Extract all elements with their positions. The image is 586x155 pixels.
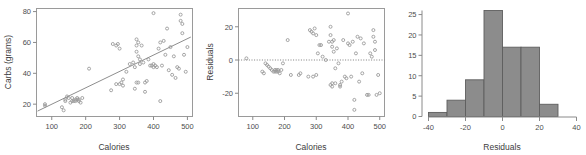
data-point: [186, 46, 189, 49]
data-point: [358, 80, 361, 83]
y-tick-label: 20: [23, 100, 31, 109]
data-point: [334, 82, 337, 85]
data-point: [321, 55, 324, 58]
y-axis-ticks: 0510152025: [408, 10, 422, 121]
data-point: [378, 92, 381, 95]
data-point: [286, 39, 289, 42]
y-tick-label: 5: [412, 92, 416, 101]
data-point: [135, 38, 138, 41]
data-point: [353, 98, 356, 101]
data-point: [369, 52, 372, 55]
data-point: [184, 70, 187, 73]
data-point: [137, 55, 140, 58]
data-point: [334, 67, 337, 70]
data-point: [111, 42, 114, 45]
data-point: [179, 19, 182, 22]
data-point: [329, 34, 332, 37]
data-point: [133, 87, 136, 90]
x-axis-ticks: 100200300400500: [46, 117, 194, 131]
y-tick-label: 20: [408, 31, 416, 40]
data-point: [115, 83, 118, 86]
data-point: [138, 58, 141, 61]
data-point: [280, 68, 283, 71]
data-point: [60, 106, 63, 109]
data-point: [155, 66, 158, 69]
y-tick-label: 40: [23, 69, 31, 78]
x-tick-label: 200: [278, 122, 291, 131]
x-axis-title: Calories: [295, 142, 326, 152]
data-point: [137, 41, 140, 44]
y-axis-title: Carbs (grams): [3, 35, 13, 89]
data-point: [362, 42, 365, 45]
data-point: [347, 12, 350, 15]
data-point: [121, 78, 124, 81]
y-axis-ticks: -20020: [222, 23, 238, 98]
data-point: [353, 108, 356, 111]
data-point: [171, 73, 174, 76]
figure-three-panel-regression-diagnostics: 100200300400500 20406080 Calories Carbs …: [0, 0, 586, 155]
data-point: [145, 80, 148, 83]
scatter-carbs-calories-svg: 100200300400500 20406080 Calories Carbs …: [0, 0, 200, 155]
x-tick-label: 300: [113, 122, 126, 131]
data-point: [177, 67, 180, 70]
y-axis-ticks: 20406080: [23, 7, 37, 109]
y-tick-label: 15: [408, 51, 416, 60]
data-point: [174, 76, 177, 79]
data-point: [88, 67, 91, 70]
data-point: [125, 70, 128, 73]
data-point: [167, 69, 170, 72]
data-point: [121, 84, 124, 87]
data-point: [118, 47, 121, 50]
x-tick-label: 20: [535, 123, 543, 132]
x-tick-label: 400: [147, 122, 160, 131]
histogram-bar: [466, 80, 485, 117]
x-tick-label: -20: [460, 123, 471, 132]
x-tick-label: 100: [46, 122, 59, 131]
data-point: [140, 44, 143, 47]
data-point: [332, 50, 335, 53]
data-point: [373, 49, 376, 52]
data-point: [315, 34, 318, 37]
histogram-bar: [429, 112, 448, 116]
data-point: [350, 75, 353, 78]
data-point: [160, 64, 163, 67]
y-tick-label: 0: [229, 56, 233, 65]
data-point: [138, 63, 141, 66]
x-tick-label: 400: [342, 122, 355, 131]
data-point: [135, 50, 138, 53]
data-point: [289, 73, 292, 76]
data-point: [181, 22, 184, 25]
data-point: [316, 52, 319, 55]
histogram-bar: [503, 47, 522, 116]
data-point: [356, 35, 359, 38]
data-point: [71, 96, 74, 99]
data-point: [142, 61, 145, 64]
x-axis-ticks: 100200300400500: [247, 117, 386, 131]
data-point: [281, 62, 284, 65]
data-point: [372, 29, 375, 32]
data-point: [81, 96, 84, 99]
data-point: [335, 47, 338, 50]
data-point: [331, 45, 334, 48]
x-tick-label: 500: [181, 122, 194, 131]
data-point: [164, 53, 167, 56]
data-point: [312, 75, 315, 78]
scatter-points-group: [245, 12, 381, 111]
histogram-bar: [540, 104, 559, 116]
data-point: [375, 93, 378, 96]
data-point: [329, 25, 332, 28]
data-point: [361, 72, 364, 75]
x-axis-ticks: -40-2002040: [423, 117, 581, 132]
x-tick-label: 200: [79, 122, 92, 131]
data-point: [342, 39, 345, 42]
data-point: [354, 52, 357, 55]
data-point: [152, 12, 155, 15]
data-point: [120, 81, 123, 84]
scatter-points-group: [43, 12, 188, 112]
panel-histogram-residuals: -40-2002040 0510152025 Residuals: [392, 0, 586, 155]
data-point: [128, 63, 131, 66]
histogram-bar: [484, 11, 503, 117]
x-tick-label: -40: [423, 123, 434, 132]
y-tick-label: -20: [222, 89, 233, 98]
x-tick-label: 100: [247, 122, 260, 131]
